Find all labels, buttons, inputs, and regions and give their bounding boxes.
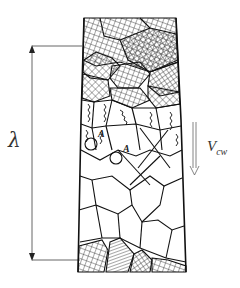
marker-a-1: A [98, 128, 105, 139]
grain-structure-diagram [0, 0, 240, 288]
velocity-main: V [207, 138, 216, 154]
marker-a-2: A [123, 143, 130, 154]
cross-hatched-top-zone [82, 18, 180, 108]
dimension-lambda [29, 45, 82, 261]
velocity-subscript: cw [216, 146, 227, 157]
lambda-label: λ [8, 128, 21, 152]
cross-hatched-bottom-zone [78, 238, 186, 272]
velocity-label: Vcw [207, 138, 227, 157]
serrated-transition-zone [81, 100, 182, 185]
velocity-arrow-icon [190, 122, 199, 175]
